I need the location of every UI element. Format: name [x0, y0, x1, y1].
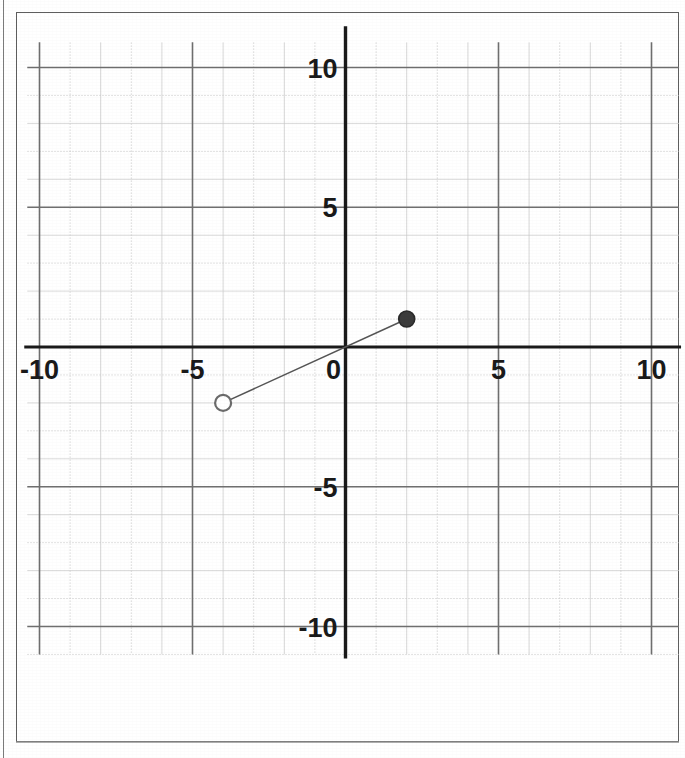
y-tick-label-10: 10 [307, 54, 337, 84]
axes [24, 26, 681, 658]
x-tick-label-neg10: -10 [20, 355, 59, 385]
open-circle-endpoint[interactable] [215, 395, 231, 411]
y-tick-label-5: 5 [322, 193, 337, 223]
plotted-series[interactable] [215, 311, 415, 411]
y-tick-label-neg10: -10 [298, 613, 337, 643]
filled-circle-endpoint[interactable] [399, 311, 415, 327]
coordinate-plane-svg[interactable]: -10-50510105-5-10 [0, 0, 685, 758]
x-tick-label-10: 10 [636, 355, 666, 385]
x-tick-label-origin: 0 [326, 355, 341, 385]
scanned-page: -10-50510105-5-10 [0, 0, 685, 758]
coordinate-plane[interactable]: -10-50510105-5-10 [0, 0, 685, 758]
x-tick-label-5: 5 [491, 355, 506, 385]
x-tick-label-neg5: -5 [180, 355, 204, 385]
y-tick-label-neg5: -5 [313, 473, 337, 503]
